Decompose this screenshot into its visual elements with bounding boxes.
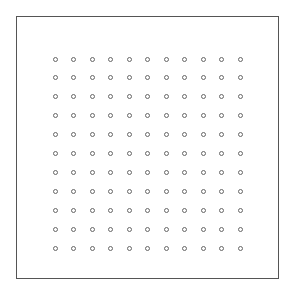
data-point-marker: [164, 170, 169, 175]
data-point-marker: [71, 189, 76, 194]
data-point-marker: [127, 113, 132, 118]
data-point-marker: [127, 94, 132, 99]
data-point-marker: [108, 151, 113, 156]
data-point-marker: [201, 189, 206, 194]
data-point-marker: [71, 151, 76, 156]
data-point-marker: [53, 208, 58, 213]
data-point-marker: [71, 170, 76, 175]
data-point-marker: [53, 189, 58, 194]
data-point-marker: [127, 170, 132, 175]
data-point-marker: [108, 227, 113, 232]
data-point-marker: [238, 246, 243, 251]
data-point-marker: [238, 113, 243, 118]
data-point-marker: [219, 227, 224, 232]
data-point-marker: [182, 246, 187, 251]
data-point-marker: [201, 113, 206, 118]
data-point-marker: [164, 113, 169, 118]
data-point-marker: [238, 132, 243, 137]
data-point-marker: [53, 94, 58, 99]
data-point-marker: [145, 246, 150, 251]
data-point-marker: [90, 132, 95, 137]
data-point-marker: [201, 246, 206, 251]
data-point-marker: [53, 151, 58, 156]
data-point-marker: [108, 189, 113, 194]
data-point-marker: [164, 57, 169, 62]
data-point-marker: [127, 132, 132, 137]
data-point-marker: [71, 57, 76, 62]
data-point-marker: [219, 151, 224, 156]
data-point-marker: [238, 75, 243, 80]
data-point-marker: [53, 113, 58, 118]
data-point-marker: [164, 246, 169, 251]
data-point-marker: [90, 189, 95, 194]
data-point-marker: [164, 75, 169, 80]
data-point-marker: [201, 170, 206, 175]
data-point-marker: [164, 151, 169, 156]
data-point-marker: [127, 57, 132, 62]
data-point-marker: [53, 57, 58, 62]
data-point-marker: [238, 189, 243, 194]
data-point-marker: [182, 189, 187, 194]
data-point-marker: [238, 227, 243, 232]
data-point-marker: [53, 246, 58, 251]
plot-frame: [16, 16, 279, 279]
data-point-marker: [201, 94, 206, 99]
data-point-marker: [145, 189, 150, 194]
data-point-marker: [127, 189, 132, 194]
data-point-marker: [71, 227, 76, 232]
data-point-marker: [219, 189, 224, 194]
data-point-marker: [219, 170, 224, 175]
data-point-marker: [90, 246, 95, 251]
data-point-marker: [238, 151, 243, 156]
data-point-marker: [238, 57, 243, 62]
data-point-marker: [164, 94, 169, 99]
data-point-marker: [127, 75, 132, 80]
data-point-marker: [127, 246, 132, 251]
data-point-marker: [90, 75, 95, 80]
data-point-marker: [219, 208, 224, 213]
data-point-marker: [164, 132, 169, 137]
data-point-marker: [127, 227, 132, 232]
data-point-marker: [145, 227, 150, 232]
data-point-marker: [238, 170, 243, 175]
data-point-marker: [90, 227, 95, 232]
data-point-marker: [182, 208, 187, 213]
data-point-marker: [145, 170, 150, 175]
data-point-marker: [238, 208, 243, 213]
data-point-marker: [108, 208, 113, 213]
data-point-marker: [90, 208, 95, 213]
data-point-marker: [53, 75, 58, 80]
data-point-marker: [145, 151, 150, 156]
data-point-marker: [182, 57, 187, 62]
data-point-marker: [201, 57, 206, 62]
data-point-marker: [90, 57, 95, 62]
data-point-marker: [182, 151, 187, 156]
data-point-marker: [90, 94, 95, 99]
data-point-marker: [164, 208, 169, 213]
data-point-marker: [201, 208, 206, 213]
data-point-marker: [201, 132, 206, 137]
data-point-marker: [71, 246, 76, 251]
data-point-marker: [53, 132, 58, 137]
data-point-marker: [145, 208, 150, 213]
data-point-marker: [201, 227, 206, 232]
data-point-marker: [238, 94, 243, 99]
data-point-marker: [108, 57, 113, 62]
data-point-marker: [182, 170, 187, 175]
data-point-marker: [108, 246, 113, 251]
data-point-marker: [53, 170, 58, 175]
data-point-marker: [108, 170, 113, 175]
data-point-marker: [127, 151, 132, 156]
data-point-marker: [201, 75, 206, 80]
data-point-marker: [90, 113, 95, 118]
data-point-marker: [71, 208, 76, 213]
data-point-marker: [90, 151, 95, 156]
data-point-marker: [90, 170, 95, 175]
data-point-marker: [145, 57, 150, 62]
data-point-marker: [219, 246, 224, 251]
data-point-marker: [127, 208, 132, 213]
data-point-marker: [164, 227, 169, 232]
data-point-marker: [201, 151, 206, 156]
data-point-marker: [53, 227, 58, 232]
data-point-marker: [164, 189, 169, 194]
